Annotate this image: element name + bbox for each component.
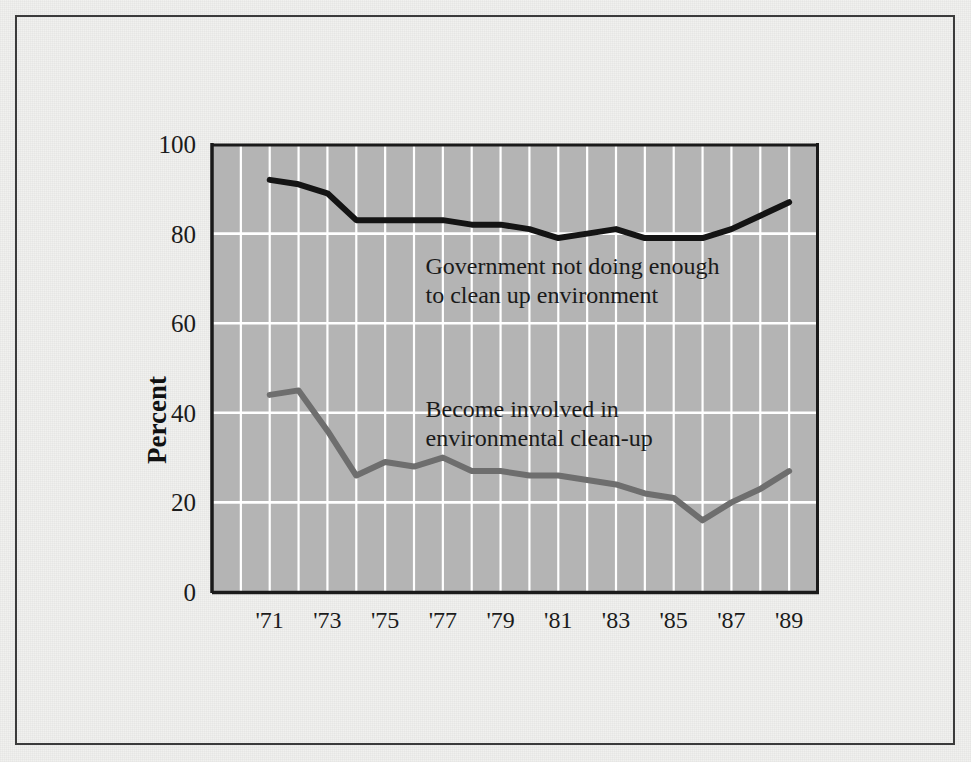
government-annotation-line-1: to clean up environment (426, 282, 659, 308)
involvement-annotation-line-0: Become involved in (426, 396, 619, 422)
y-tick-label: 80 (171, 221, 196, 248)
involvement-annotation-line-1: environmental clean-up (426, 425, 653, 451)
x-axis-tick-labels: '71'73'75'77'79'81'83'85'87'89 (256, 607, 804, 633)
y-tick-label: 0 (184, 579, 197, 606)
y-tick-label: 100 (159, 131, 197, 158)
y-axis-title: Percent (142, 376, 172, 464)
x-tick-label: '89 (775, 607, 803, 633)
x-tick-label: '83 (602, 607, 630, 633)
x-tick-label: '79 (486, 607, 514, 633)
x-tick-label: '81 (544, 607, 572, 633)
x-tick-label: '73 (313, 607, 341, 633)
chart-page: 020406080100 '71'73'75'77'79'81'83'85'87… (0, 0, 971, 762)
x-tick-label: '75 (371, 607, 399, 633)
x-tick-label: '77 (429, 607, 457, 633)
y-tick-label: 60 (171, 310, 196, 337)
y-tick-label: 20 (171, 489, 196, 516)
x-tick-label: '87 (717, 607, 745, 633)
x-tick-label: '85 (660, 607, 688, 633)
government-annotation-line-0: Government not doing enough (426, 253, 720, 279)
y-tick-label: 40 (171, 400, 196, 427)
y-axis-tick-labels: 020406080100 (159, 131, 197, 606)
x-tick-label: '71 (256, 607, 284, 633)
plot-panel-background (212, 144, 818, 592)
line-chart: 020406080100 '71'73'75'77'79'81'83'85'87… (0, 0, 971, 762)
